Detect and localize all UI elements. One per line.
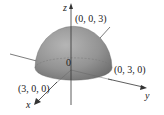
x-axis-label: x — [25, 99, 31, 110]
z-arrow-icon — [69, 3, 73, 9]
diagram-canvas: z y x 0 (0, 0, 3) (0, 3, 0) (3, 0, 0) — [0, 0, 164, 115]
y-axis-label: y — [144, 90, 150, 101]
origin-label: 0 — [66, 57, 71, 68]
y-axis — [108, 79, 143, 87]
hemisphere-diagram: z y x 0 (0, 0, 3) (0, 3, 0) (3, 0, 0) — [0, 0, 164, 115]
point-label-x: (3, 0, 0) — [18, 83, 50, 95]
point-label-z: (0, 0, 3) — [75, 13, 107, 25]
z-axis-label: z — [62, 2, 67, 13]
hemisphere-surface — [35, 26, 112, 80]
point-label-y: (0, 3, 0) — [114, 64, 146, 76]
